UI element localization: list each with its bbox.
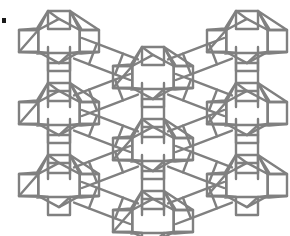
scan-mark-artifact [2, 18, 6, 23]
rhombus-se [258, 124, 287, 125]
rhombus-se [258, 196, 287, 197]
cage-strut [226, 196, 236, 197]
cage-strut [38, 52, 48, 53]
rhombus-se [164, 88, 193, 89]
rhombus-se [70, 124, 99, 125]
cage-strut [38, 124, 48, 125]
cage-strut [132, 88, 142, 89]
rhombus-se [164, 160, 193, 161]
cage-strut [132, 160, 142, 161]
sodalite-lattice-drawing [0, 0, 290, 236]
zeolite-framework-figure [0, 0, 290, 236]
rhombus-se [70, 196, 99, 197]
cage-strut [226, 52, 236, 53]
cage-strut [226, 124, 236, 125]
rhombus-se [164, 232, 193, 233]
rhombus-se [70, 52, 99, 53]
cage-strut [38, 196, 48, 197]
cage-strut [132, 232, 142, 233]
rhombus-se [258, 52, 287, 53]
